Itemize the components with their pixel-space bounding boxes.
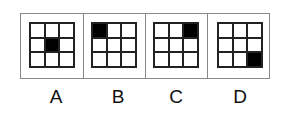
- grid-cell: [121, 52, 136, 67]
- grid-cell: [247, 52, 262, 67]
- grid-cell: [92, 52, 107, 67]
- grid-cell: [30, 23, 45, 38]
- option-a-label: A: [41, 86, 71, 108]
- grid-cell: [169, 23, 184, 38]
- grid-cell: [169, 38, 184, 53]
- grid-cell: [154, 52, 169, 67]
- grid-cell: [59, 23, 74, 38]
- grid-cell: [233, 23, 248, 38]
- divider: [83, 14, 84, 78]
- grid-cell: [121, 38, 136, 53]
- grid-cell: [45, 52, 60, 67]
- option-d-grid: [217, 22, 263, 68]
- grid-cell: [121, 23, 136, 38]
- grid-cell: [218, 52, 233, 67]
- grid-cell: [30, 38, 45, 53]
- option-b-label: B: [103, 86, 133, 108]
- grid-cell: [218, 38, 233, 53]
- grid-cell: [92, 23, 107, 38]
- grid-cell: [218, 23, 233, 38]
- option-a-grid: [29, 22, 75, 68]
- grid-cell: [154, 38, 169, 53]
- grid-cell: [107, 52, 122, 67]
- grid-cell: [247, 38, 262, 53]
- grid-cell: [59, 38, 74, 53]
- option-c-grid: [153, 22, 199, 68]
- grid-cell: [45, 38, 60, 53]
- grid-cell: [92, 38, 107, 53]
- options-frame: [20, 13, 270, 79]
- grid-cell: [233, 52, 248, 67]
- option-d-label: D: [225, 86, 255, 108]
- grid-cell: [107, 38, 122, 53]
- grid-cell: [59, 52, 74, 67]
- option-b-grid: [91, 22, 137, 68]
- grid-cell: [183, 23, 198, 38]
- grid-cell: [30, 52, 45, 67]
- grid-cell: [183, 38, 198, 53]
- divider: [207, 14, 208, 78]
- grid-cell: [154, 23, 169, 38]
- grid-cell: [183, 52, 198, 67]
- grid-cell: [247, 23, 262, 38]
- grid-cell: [107, 23, 122, 38]
- grid-cell: [45, 23, 60, 38]
- grid-cell: [169, 52, 184, 67]
- option-c-label: C: [161, 86, 191, 108]
- divider: [145, 14, 146, 78]
- grid-cell: [233, 38, 248, 53]
